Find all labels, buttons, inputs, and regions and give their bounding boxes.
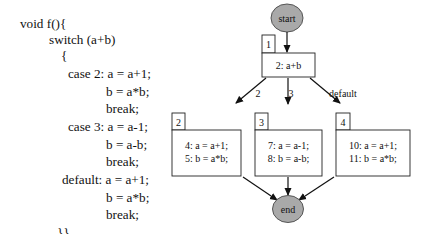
end-node: end [273,196,304,223]
edge-node-4-to-end [299,177,334,200]
edge-node-2-to-end [243,177,277,200]
node-4-line-1: 10: a = a+1; [349,140,397,151]
node-2-id: 2 [176,117,181,128]
node-2: 2 4: a = a+1; 5: b = a*b; [172,113,241,176]
start-node: start [271,4,303,32]
node-3: 3 7: a = a-1; 8: b = a-b; [255,113,322,176]
control-flow-graph: start 1 2: a+b 2 3 default 2 4: a = a+1;… [0,0,430,234]
node-2-line-2: 5: b = a*b; [185,153,228,164]
node-2-line-1: 4: a = a+1; [185,140,228,151]
node-4: 4 10: a = a+1; 11: b = a*b; [336,113,410,176]
node-3-id: 3 [259,117,264,128]
edge-label-default: default [329,88,357,99]
node-1-line-1: 2: a+b [276,60,301,71]
node-3-line-2: 8: b = a-b; [268,153,310,164]
start-label: start [278,13,295,24]
edge-label-case-3: 3 [289,88,294,99]
end-label: end [281,204,295,215]
node-1: 1 2: a+b [262,35,315,77]
node-4-line-2: 11: b = a*b; [349,153,397,164]
node-1-id: 1 [266,39,271,50]
node-4-id: 4 [341,117,346,128]
node-3-line-1: 7: a = a-1; [268,140,309,151]
edge-node-1-to-node-2 [236,78,266,103]
edge-label-case-2: 2 [256,88,261,99]
